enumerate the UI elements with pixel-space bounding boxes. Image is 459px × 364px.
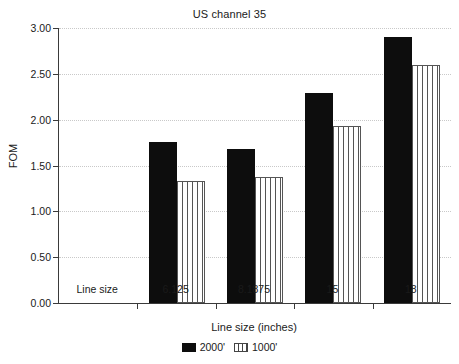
x-axis-title: Line size (inches) <box>58 321 450 333</box>
bar-series-1000 <box>412 65 440 303</box>
y-axis-title: FOM <box>7 131 19 181</box>
x-tick-label: Line size <box>76 283 117 295</box>
y-tick-label: 1.50 <box>31 160 51 172</box>
x-tick-mark <box>137 303 138 309</box>
chart-figure: US channel 35 FOM 0.000.501.001.502.002.… <box>0 0 459 364</box>
bar-series-2000 <box>227 149 255 303</box>
chart-title: US channel 35 <box>0 8 459 20</box>
x-tick-label: 18 <box>405 283 417 295</box>
x-tick-mark <box>294 303 295 309</box>
legend-entry[interactable]: 2000' <box>182 341 225 353</box>
bars-layer <box>59 28 451 303</box>
bar-series-2000 <box>305 93 333 303</box>
y-tick-label: 2.00 <box>31 114 51 126</box>
chart-legend: 2000'1000' <box>0 341 459 353</box>
legend-entry[interactable]: 1000' <box>234 341 277 353</box>
y-tick-label: 1.00 <box>31 205 51 217</box>
legend-swatch-solid-icon <box>182 343 196 352</box>
legend-label: 2000' <box>200 341 225 353</box>
x-tick-label: 8.1875 <box>238 283 270 295</box>
bar-series-2000 <box>384 37 412 303</box>
x-tick-label: 6.125 <box>162 283 188 295</box>
plot-area: 0.000.501.001.502.002.503.00 <box>58 28 451 304</box>
y-tick-label: 0.00 <box>31 297 51 309</box>
y-tick-label: 2.50 <box>31 68 51 80</box>
legend-swatch-striped-icon <box>234 343 248 352</box>
y-tick-label: 0.50 <box>31 251 51 263</box>
y-tick-mark <box>53 303 59 304</box>
legend-label: 1000' <box>252 341 277 353</box>
x-tick-mark <box>373 303 374 309</box>
bar-series-1000 <box>333 126 361 303</box>
y-tick-label: 3.00 <box>31 22 51 34</box>
x-tick-mark <box>216 303 217 309</box>
x-tick-label: 15 <box>327 283 339 295</box>
bar-series-2000 <box>149 142 177 303</box>
